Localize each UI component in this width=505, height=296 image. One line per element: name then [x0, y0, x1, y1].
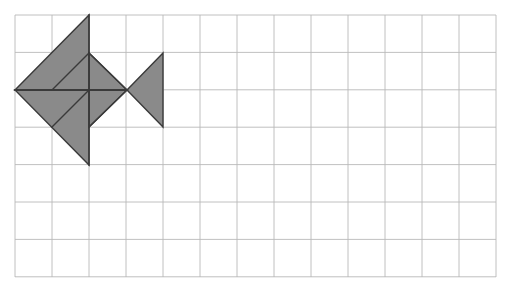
screenshot-canvas [0, 0, 505, 296]
tangram-figure-svg [0, 0, 505, 296]
